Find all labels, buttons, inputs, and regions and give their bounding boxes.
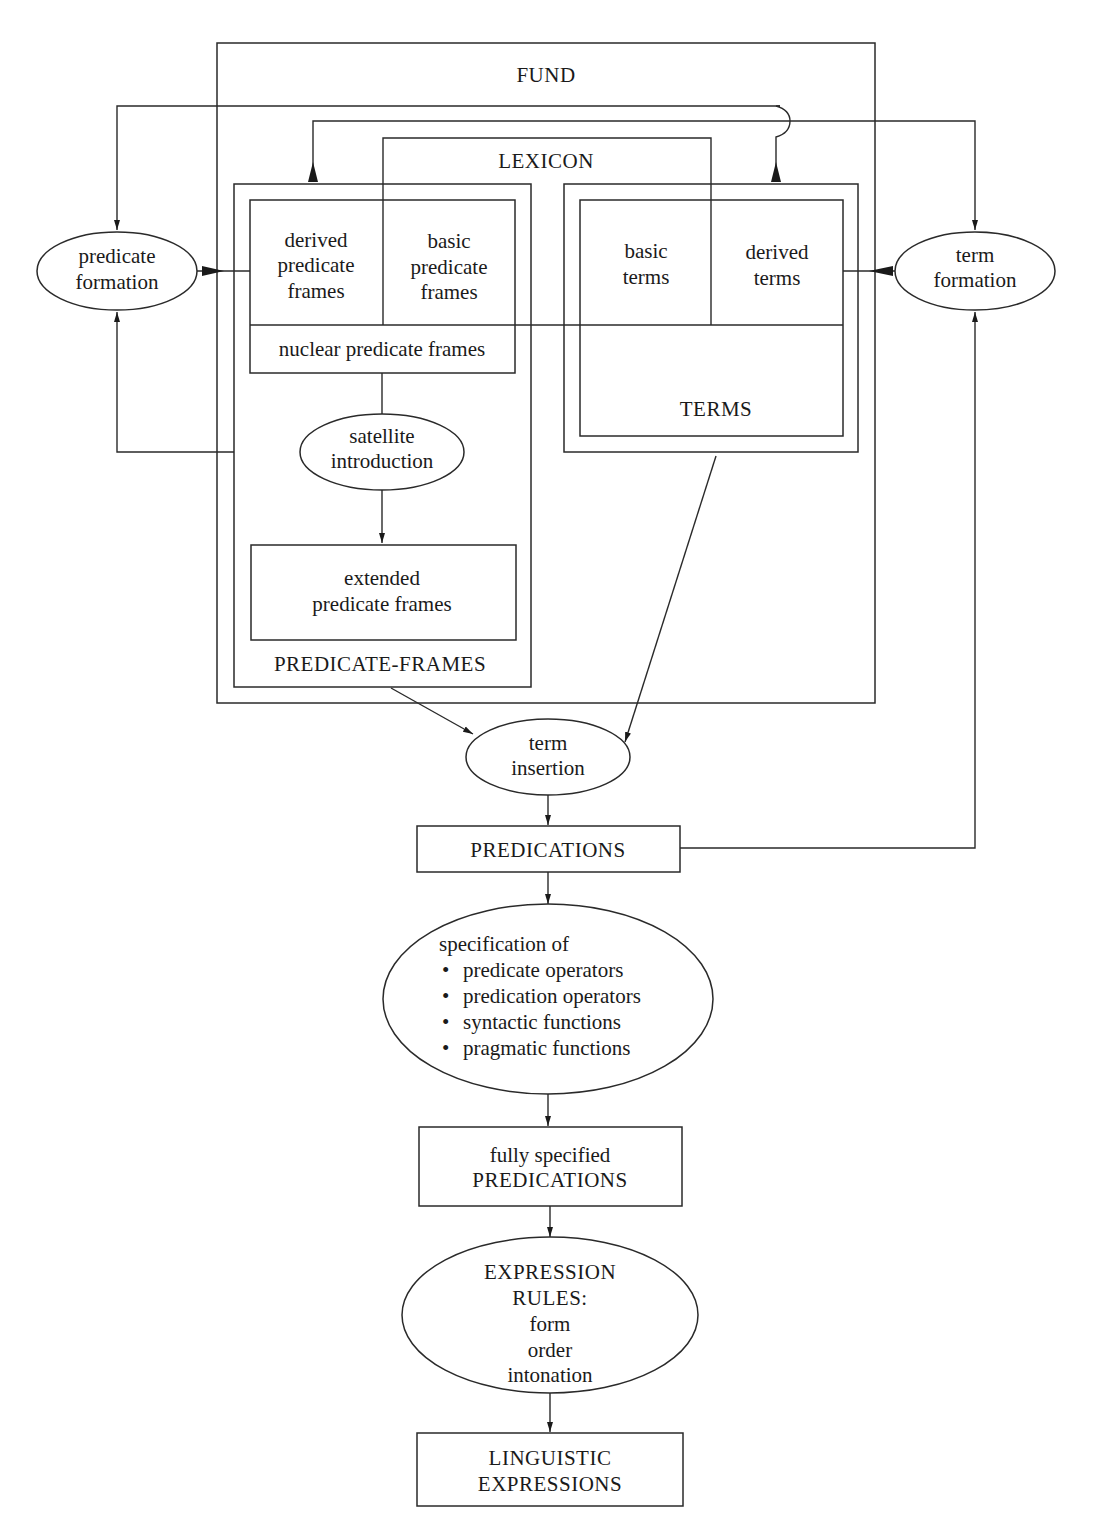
svg-text:predicate: predicate (79, 244, 156, 268)
svg-text:•: • (442, 1010, 449, 1034)
svg-text:derived: derived (285, 228, 348, 252)
list-item: syntactic functions (463, 1010, 621, 1034)
derived-predicate-frames-box: derived predicate frames (278, 228, 355, 303)
specification-item-list: • predicate operators • predication oper… (442, 958, 641, 1060)
svg-text:predicate: predicate (411, 255, 488, 279)
svg-text:•: • (442, 958, 449, 982)
fund-label: FUND (516, 63, 575, 87)
svg-text:intonation: intonation (507, 1363, 593, 1387)
svg-text:LINGUISTIC: LINGUISTIC (489, 1446, 612, 1470)
svg-text:terms: terms (754, 266, 801, 290)
svg-text:predicate: predicate (278, 253, 355, 277)
svg-text:frames: frames (420, 280, 477, 304)
nuclear-predicate-frames-label: nuclear predicate frames (279, 337, 485, 361)
svg-text:introduction: introduction (331, 449, 434, 473)
svg-text:terms: terms (623, 265, 670, 289)
predicate-formation-process: predicate formation (37, 232, 197, 310)
svg-text:formation: formation (934, 268, 1017, 292)
predicate-frames-label: PREDICATE-FRAMES (274, 652, 486, 676)
svg-text:term: term (956, 243, 994, 267)
specification-process: specification of • predicate operators •… (383, 904, 713, 1094)
specification-heading: specification of (439, 932, 569, 956)
svg-text:predicate frames: predicate frames (312, 592, 451, 616)
term-insertion-process: term insertion (466, 719, 630, 795)
list-item: predication operators (463, 984, 641, 1008)
extended-predicate-frames-box: extended predicate frames (251, 545, 516, 640)
svg-text:•: • (442, 1036, 449, 1060)
svg-text:frames: frames (287, 279, 344, 303)
satellite-introduction-process: satellite introduction (300, 414, 464, 490)
functional-grammar-diagram: FUND LEXICON PREDICATE-FRAMES derived pr… (0, 0, 1095, 1538)
svg-text:RULES:: RULES: (512, 1286, 587, 1310)
lexicon-label: LEXICON (498, 149, 594, 173)
svg-text:PREDICATIONS: PREDICATIONS (472, 1168, 627, 1192)
list-item: pragmatic functions (463, 1036, 630, 1060)
term-formation-process: term formation (895, 232, 1055, 310)
expression-rules-process: EXPRESSION RULES: form order intonation (402, 1237, 698, 1393)
fully-specified-predications-box: fully specified PREDICATIONS (419, 1127, 682, 1206)
svg-text:basic: basic (624, 239, 667, 263)
svg-text:formation: formation (76, 270, 159, 294)
svg-text:EXPRESSION: EXPRESSION (484, 1260, 616, 1284)
predications-box: PREDICATIONS (417, 826, 680, 872)
linguistic-expressions-box: LINGUISTIC EXPRESSIONS (417, 1433, 683, 1506)
list-item: predicate operators (463, 958, 623, 982)
svg-text:•: • (442, 984, 449, 1008)
svg-text:EXPRESSIONS: EXPRESSIONS (478, 1472, 622, 1496)
svg-text:form: form (530, 1312, 571, 1336)
svg-text:term: term (529, 731, 567, 755)
basic-predicate-frames-box: basic predicate frames (411, 229, 488, 304)
svg-text:basic: basic (427, 229, 470, 253)
svg-text:order: order (528, 1338, 572, 1362)
svg-text:satellite: satellite (349, 424, 414, 448)
svg-text:fully specified: fully specified (490, 1143, 611, 1167)
svg-text:extended: extended (344, 566, 420, 590)
terms-container: TERMS (515, 184, 858, 452)
terms-label: TERMS (680, 397, 753, 421)
svg-text:PREDICATIONS: PREDICATIONS (470, 838, 625, 862)
svg-text:insertion: insertion (511, 756, 585, 780)
derived-terms-box: derived terms (746, 240, 809, 290)
svg-text:derived: derived (746, 240, 809, 264)
basic-terms-box: basic terms (623, 239, 670, 289)
